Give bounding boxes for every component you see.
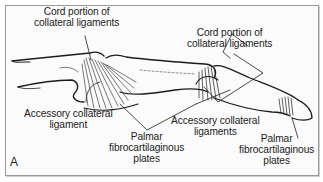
distal-phalanx — [292, 100, 312, 120]
label-line: fibrocartilaginous — [109, 142, 184, 153]
label-line: Cord portion of — [34, 6, 119, 17]
label-cord-portion-ip: Cord portion of collateral ligaments — [187, 27, 272, 49]
label-line: collateral ligaments — [34, 17, 119, 28]
label-accessory-collateral-mcp: Accessory collateral ligament — [24, 108, 113, 130]
label-line: ligament — [24, 119, 113, 130]
label-cord-portion-mcp: Cord portion of collateral ligaments — [34, 6, 119, 28]
dip-collateral-ligament — [279, 97, 293, 115]
label-line: Palmar — [239, 133, 314, 144]
label-line: plates — [109, 153, 184, 164]
panel-label: A — [10, 155, 18, 169]
label-line: collateral ligaments — [187, 38, 272, 49]
label-line: Accessory collateral — [24, 108, 113, 119]
middle-phalanx — [214, 66, 298, 100]
pip-collateral-ligament — [199, 66, 220, 100]
label-line: Palmar — [109, 131, 184, 142]
label-line: plates — [239, 155, 314, 166]
mcp-collateral-ligament — [82, 58, 136, 108]
label-palmar-plates-mcp: Palmar fibrocartilaginous plates — [109, 131, 184, 164]
label-line: fibrocartilaginous — [239, 144, 314, 155]
label-line: Cord portion of — [187, 27, 272, 38]
label-palmar-plates-ip: Palmar fibrocartilaginous plates — [239, 133, 314, 166]
label-line: Accessory collateral — [171, 115, 260, 126]
